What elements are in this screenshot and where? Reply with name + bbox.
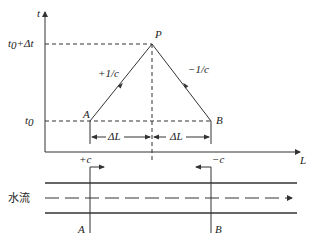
characteristic-bp (152, 44, 211, 121)
span-left-label: ΔL (107, 130, 121, 142)
wave-plus-c-label: +c (79, 153, 91, 165)
tick-t0-plus-dt: t0+Δt (8, 37, 34, 51)
section-a-label: A (77, 223, 85, 235)
characteristic-ap (90, 44, 152, 121)
point-a-label: A (82, 108, 90, 120)
wave-minus-c-label: −c (212, 153, 224, 165)
direction-arrow-bp (182, 81, 189, 88)
slope-right-label: −1/c (188, 63, 209, 75)
tick-t0: t0 (25, 114, 34, 128)
point-b-label: B (216, 114, 223, 126)
flow-label: 水流 (8, 191, 30, 205)
section-b-label: B (215, 223, 222, 235)
t-axis-label: t (37, 7, 41, 19)
characteristic-diagram: t L t0+Δt t0 A B P +1/c −1/c ΔL ΔL 水流 +c… (0, 0, 313, 248)
l-axis-label: L (299, 154, 306, 166)
slope-left-label: +1/c (98, 67, 119, 79)
point-p-label: P (154, 28, 162, 40)
span-right-label: ΔL (169, 130, 183, 142)
